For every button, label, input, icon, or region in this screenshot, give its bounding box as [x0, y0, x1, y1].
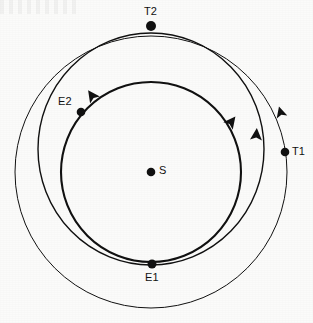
label-target-arrival: T2 — [144, 6, 157, 17]
target-start-marker — [281, 148, 290, 157]
sun-marker — [147, 168, 156, 177]
inner-orbit-direction-arrow-icon — [223, 113, 240, 130]
label-sun: S — [159, 165, 166, 176]
earth-start-marker — [148, 260, 157, 269]
label-earth-start: E1 — [145, 272, 159, 283]
label-earth-arrival: E2 — [58, 96, 72, 107]
earth-arrival-marker — [77, 108, 86, 117]
target-orbit-direction-arrow-icon — [274, 105, 288, 119]
transfer-direction-arrow-icon — [250, 128, 263, 141]
transfer-ellipse-path — [38, 33, 264, 265]
label-target-start: T1 — [292, 146, 305, 157]
target-arrival-marker — [146, 21, 156, 31]
orbital-transfer-diagram: T2 T1 E2 E1 S — [0, 0, 313, 323]
